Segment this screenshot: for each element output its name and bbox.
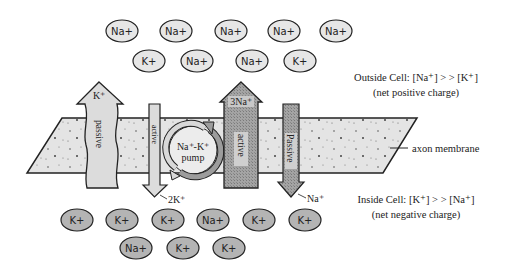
svg-text:Na+: Na+: [202, 215, 224, 226]
ion-k: K+: [289, 209, 321, 231]
svg-text:Na⁺: Na⁺: [307, 193, 324, 204]
ion-na: Na+: [236, 50, 268, 72]
ion-na: Na+: [106, 20, 138, 42]
svg-text:K+: K+: [70, 215, 85, 226]
svg-text:(net positive charge): (net positive charge): [373, 87, 460, 99]
inside-cell-label: Inside Cell: [K⁺] > > [Na⁺] (net negativ…: [358, 194, 475, 221]
svg-text:Inside Cell: [K⁺] > > [Na⁺]: Inside Cell: [K⁺] > > [Na⁺]: [358, 194, 475, 205]
ion-k: K+: [106, 209, 138, 231]
svg-text:active: active: [150, 125, 159, 145]
ion-na: Na+: [320, 20, 352, 42]
svg-text:Na+: Na+: [273, 26, 295, 37]
svg-text:Na+: Na+: [186, 56, 208, 67]
svg-text:Na+: Na+: [325, 26, 347, 37]
inside-ions: K+ K+ K+ Na+ K+ K+ Na+ K+ K+: [61, 209, 321, 259]
svg-text:Na+: Na+: [125, 243, 147, 254]
ion-k: K+: [133, 50, 165, 72]
sodium-potassium-pump-diagram: Na+ Na+ Na+ Na+ Na+ K+ Na+ Na+ K+ K⁺ pas…: [0, 0, 509, 277]
svg-text:K+: K+: [115, 215, 130, 226]
ion-k: K+: [284, 50, 316, 72]
svg-text:Na+: Na+: [241, 56, 263, 67]
ion-na: Na+: [160, 20, 192, 42]
svg-text:pump: pump: [182, 152, 205, 163]
svg-text:active: active: [236, 134, 246, 157]
ion-na: Na+: [197, 209, 229, 231]
ion-k: K+: [152, 209, 184, 231]
svg-text:2K⁺: 2K⁺: [168, 194, 185, 205]
svg-text:passive: passive: [94, 120, 104, 148]
ion-na: Na+: [120, 237, 152, 259]
svg-text:Na+: Na+: [111, 26, 133, 37]
svg-text:K+: K+: [293, 56, 308, 67]
svg-text:Na⁺-K⁺: Na⁺-K⁺: [177, 141, 209, 152]
ion-k: K+: [167, 237, 199, 259]
svg-text:K+: K+: [252, 215, 267, 226]
na-active-arrow: 3Na⁺ active: [220, 82, 262, 188]
outside-ions: Na+ Na+ Na+ Na+ Na+ K+ Na+ Na+ K+: [106, 20, 352, 72]
ion-k: K+: [61, 209, 93, 231]
svg-text:(net negative charge): (net negative charge): [372, 209, 461, 221]
ion-k: K+: [243, 209, 275, 231]
svg-text:Na+: Na+: [165, 26, 187, 37]
svg-text:K+: K+: [298, 215, 313, 226]
membrane-label: axon membrane: [390, 143, 480, 154]
ion-na: Na+: [268, 20, 300, 42]
svg-text:K+: K+: [142, 56, 157, 67]
svg-text:3Na⁺: 3Na⁺: [230, 96, 252, 107]
svg-text:K+: K+: [161, 215, 176, 226]
svg-text:K+: K+: [222, 243, 237, 254]
outside-cell-label: Outside Cell: [Na⁺] > > [K⁺] (net positi…: [354, 72, 478, 99]
svg-text:axon membrane: axon membrane: [412, 143, 480, 154]
ion-na: Na+: [215, 20, 247, 42]
svg-text:Na+: Na+: [220, 26, 242, 37]
svg-text:Outside Cell: [Na⁺] > > [K⁺]: Outside Cell: [Na⁺] > > [K⁺]: [354, 72, 478, 83]
svg-text:K⁺: K⁺: [93, 90, 105, 101]
svg-text:Passive: Passive: [285, 134, 295, 163]
ion-na: Na+: [181, 50, 213, 72]
ion-k: K+: [213, 237, 245, 259]
svg-text:K+: K+: [176, 243, 191, 254]
